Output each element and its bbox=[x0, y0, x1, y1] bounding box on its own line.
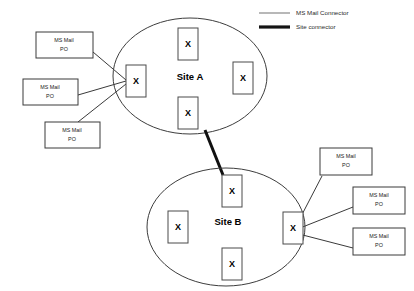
mail-connector-left-3 bbox=[78, 84, 126, 122]
legend-site-connector-label: Site connector bbox=[296, 23, 336, 30]
legend-item-mail-connector: MS Mail Connector bbox=[259, 9, 349, 16]
site-b-gateway-label: X bbox=[290, 223, 296, 233]
site-b-label: Site B bbox=[215, 216, 242, 227]
diagram-canvas: X X X X Site A X X X X bbox=[0, 0, 414, 291]
po-right-3-line2: PO bbox=[375, 242, 383, 248]
site-a-gateway[interactable]: X bbox=[126, 65, 146, 97]
po-left-1-line1: MS Mail bbox=[54, 37, 73, 43]
site-b-gateway[interactable]: X bbox=[283, 212, 303, 244]
mail-connector-left-2 bbox=[78, 81, 126, 95]
legend-mail-connector-label: MS Mail Connector bbox=[296, 9, 349, 16]
po-right-1-line2: PO bbox=[342, 162, 350, 168]
site-b-bottom-server[interactable]: X bbox=[222, 248, 242, 280]
site-b-top-label: X bbox=[229, 186, 235, 196]
post-office-right-3[interactable]: MS Mail PO bbox=[353, 228, 405, 255]
po-left-3-line1: MS Mail bbox=[62, 127, 81, 133]
post-office-right-2[interactable]: MS Mail PO bbox=[353, 187, 405, 214]
site-a-top-server[interactable]: X bbox=[178, 28, 198, 60]
post-office-left-3[interactable]: MS Mail PO bbox=[45, 122, 100, 148]
legend-item-site-connector: Site connector bbox=[259, 23, 336, 30]
po-left-3-line2: PO bbox=[68, 136, 76, 142]
po-right-3-line1: MS Mail bbox=[369, 233, 388, 239]
site-a-gateway-label: X bbox=[133, 76, 139, 86]
po-right-2-line2: PO bbox=[375, 201, 383, 207]
site-a-top-label: X bbox=[185, 39, 191, 49]
site-a-right-label: X bbox=[240, 73, 246, 83]
legend: MS Mail Connector Site connector bbox=[259, 9, 349, 30]
post-office-left-2[interactable]: MS Mail PO bbox=[23, 79, 78, 105]
site-b-bottom-label: X bbox=[229, 259, 235, 269]
site-a-bottom-label: X bbox=[185, 108, 191, 118]
mail-connector-right-3 bbox=[295, 233, 353, 248]
po-left-2-line1: MS Mail bbox=[40, 84, 59, 90]
site-b-left-server[interactable]: X bbox=[168, 211, 188, 243]
site-a-right-server[interactable]: X bbox=[233, 62, 253, 94]
network-diagram: X X X X Site A X X X X bbox=[0, 0, 414, 291]
po-left-1-line2: PO bbox=[60, 46, 68, 52]
po-right-2-line1: MS Mail bbox=[369, 192, 388, 198]
po-left-2-line2: PO bbox=[46, 93, 54, 99]
site-a-bottom-server[interactable]: X bbox=[178, 97, 198, 129]
post-office-left-1[interactable]: MS Mail PO bbox=[36, 32, 93, 58]
site-b-top-server[interactable]: X bbox=[222, 175, 242, 207]
site-b-left-label: X bbox=[175, 222, 181, 232]
po-right-1-line1: MS Mail bbox=[336, 153, 355, 159]
mail-connector-left-1 bbox=[93, 52, 126, 80]
post-office-right-1[interactable]: MS Mail PO bbox=[320, 148, 372, 175]
site-a-label: Site A bbox=[177, 71, 204, 82]
mail-connector-group-left bbox=[78, 52, 126, 122]
